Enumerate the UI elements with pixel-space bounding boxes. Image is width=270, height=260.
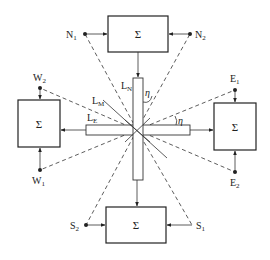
sum-block-north-label: Σ (135, 28, 141, 40)
node-s2-dot (84, 223, 88, 227)
label-eta-horizontal: η (178, 115, 183, 126)
node-n1-label: N1 (66, 29, 77, 42)
node-e2-label: E2 (230, 177, 240, 190)
node-w2-dot (38, 86, 42, 90)
label-lm: LM (92, 95, 105, 108)
label-eta-vertical: η (145, 87, 150, 98)
angle-arc-horizontal (175, 116, 177, 125)
node-n1-dot (83, 32, 87, 36)
sum-block-south-label: Σ (133, 219, 139, 231)
label-ln: LN (121, 80, 132, 93)
label-le: LE (87, 112, 97, 125)
node-w1-dot (38, 168, 42, 172)
node-e2-dot (233, 170, 237, 174)
node-s2-label: S2 (70, 220, 80, 233)
diagram-canvas: Σ N1 N2 Σ W2 W1 Σ E1 E2 Σ S2 S1 LN LM LE… (0, 0, 270, 260)
node-n2-dot (188, 32, 192, 36)
sum-block-east-label: Σ (232, 121, 238, 133)
node-e1-label: E1 (230, 73, 240, 86)
node-s1-label: S1 (196, 220, 206, 233)
sum-block-west-label: Σ (36, 118, 42, 130)
node-e1-dot (233, 88, 237, 92)
node-n2-label: N2 (195, 29, 206, 42)
node-w2-label: W2 (33, 72, 46, 85)
node-w1-label: W1 (32, 175, 45, 188)
